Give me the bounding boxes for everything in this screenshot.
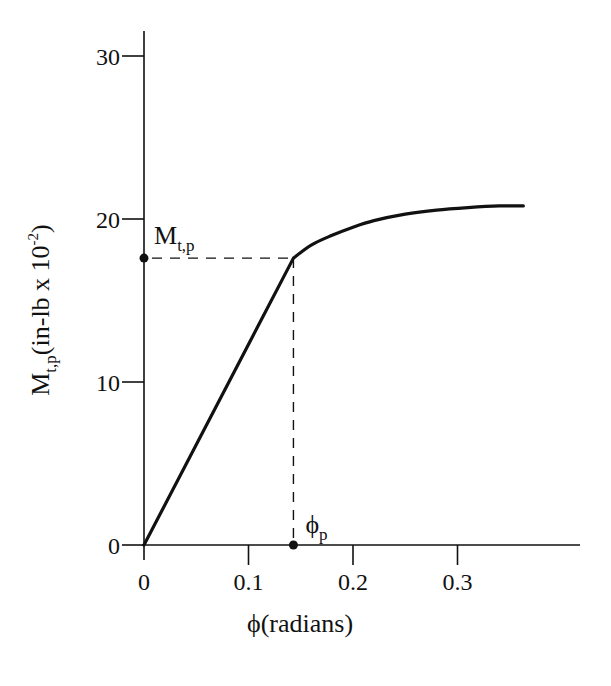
data-point-marker [289, 541, 298, 550]
x-tick-label: 0.3 [443, 569, 473, 595]
data-point-marker [140, 254, 149, 263]
x-tick-label: 0 [138, 569, 150, 595]
torque-twist-chart: 010203000.10.20.3 Mt,p ϕp ϕ(radians) Mt,… [0, 0, 611, 686]
y-tick-label: 10 [96, 370, 120, 396]
data-curve [144, 206, 523, 545]
y-tick-label: 30 [96, 44, 120, 70]
phip-annotation: ϕp [305, 510, 327, 544]
y-tick-label: 0 [108, 533, 120, 559]
x-tick-label: 0.2 [338, 569, 368, 595]
axes [142, 31, 580, 560]
x-tick-label: 0.1 [234, 569, 264, 595]
x-axis-label: ϕ(radians) [247, 609, 353, 638]
mtp-annotation: Mt,p [154, 221, 195, 255]
axis-ticks: 010203000.10.20.3 [96, 44, 473, 595]
y-axis-label: Mt,p(in-lb x 10-2) [25, 224, 60, 396]
y-tick-label: 20 [96, 207, 120, 233]
